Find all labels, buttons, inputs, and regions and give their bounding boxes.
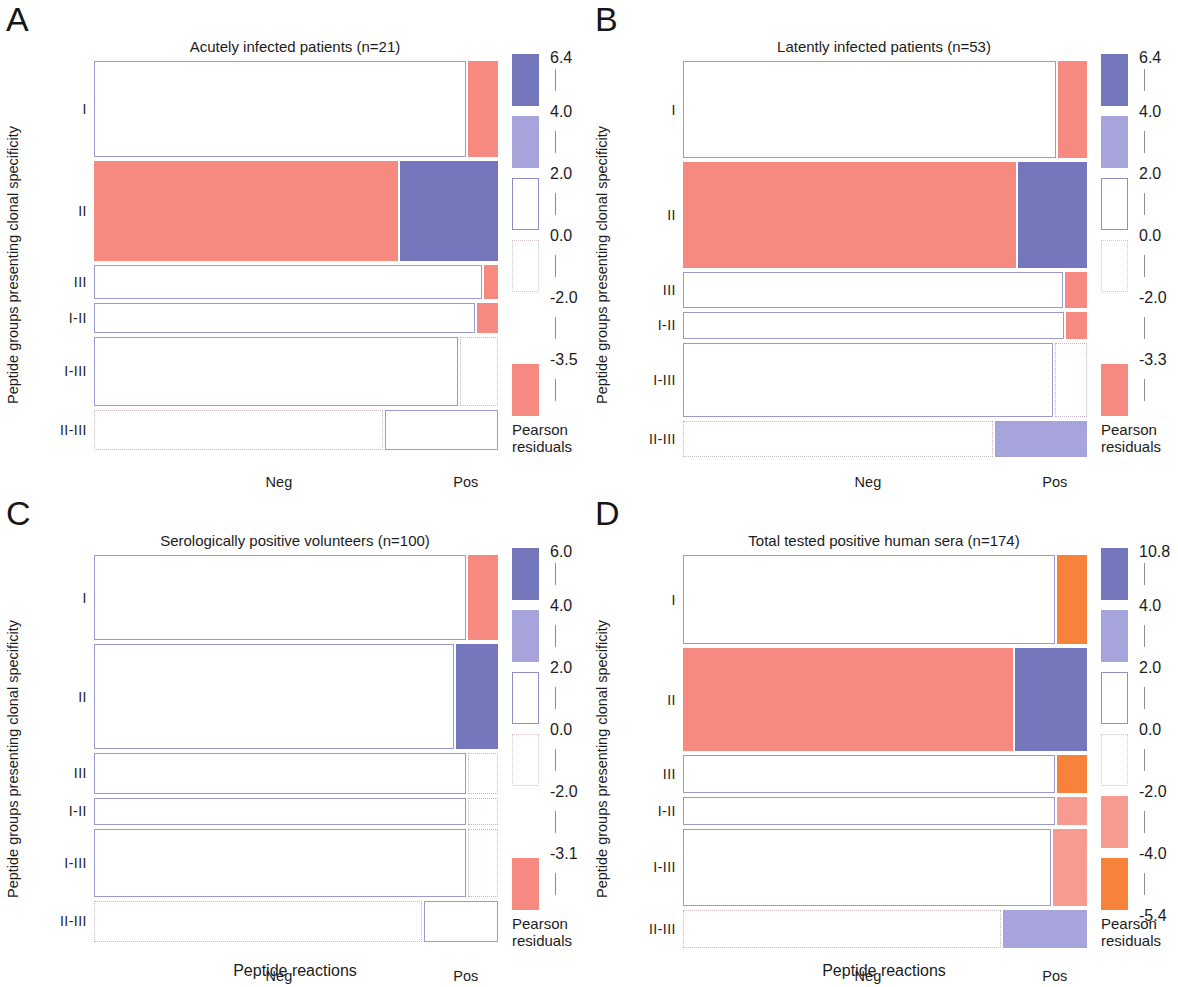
mosaic-row: I: [683, 555, 1085, 644]
y-axis-label-text: Peptide groups presenting clonal specifi…: [594, 620, 610, 898]
mosaic-cell-i-iii-neg[interactable]: [683, 829, 1051, 907]
mosaic-cell-ii-neg[interactable]: [94, 644, 454, 749]
mosaic-cell-iii-neg[interactable]: [94, 265, 482, 299]
legend-dash: [555, 193, 556, 215]
mosaic-plot: IIIIIII-III-IIIII-III: [94, 555, 496, 963]
mosaic-cell-i-ii-neg[interactable]: [94, 798, 466, 825]
mosaic-cell-i-neg[interactable]: [683, 555, 1055, 644]
legend-swatch-salmon: [1101, 364, 1128, 416]
mosaic-cell-ii-iii-pos[interactable]: [995, 421, 1087, 457]
legend-tick-label: 2.0: [550, 659, 572, 677]
figure-root: AAcutely infected patients (n=21)Peptide…: [0, 0, 1178, 987]
row-label-ii-iii: II-III: [649, 431, 676, 447]
mosaic-plot: IIIIIII-III-IIIII-III: [683, 61, 1085, 469]
mosaic-row: I-III: [94, 829, 496, 897]
mosaic-cell-ii-iii-pos[interactable]: [1003, 910, 1087, 948]
legend-dash: [1144, 873, 1145, 895]
legend-dash: [555, 131, 556, 153]
mosaic-cell-iii-pos[interactable]: [468, 753, 498, 794]
legend-tick-label: 2.0: [1139, 165, 1161, 183]
row-label-iii: III: [74, 274, 87, 290]
x-tick-pos: Pos: [1042, 474, 1067, 490]
mosaic-cell-i-ii-pos[interactable]: [1066, 312, 1087, 340]
row-label-iii: III: [663, 282, 676, 298]
legend-tick-label: 6.4: [550, 49, 572, 67]
legend-tick-label: -2.0: [550, 783, 578, 801]
mosaic-cell-ii-pos[interactable]: [400, 161, 498, 261]
legend-dash: [555, 687, 556, 709]
mosaic-cell-i-iii-pos[interactable]: [460, 337, 498, 406]
mosaic-row: III: [94, 753, 496, 794]
mosaic-cell-ii-iii-pos[interactable]: [424, 901, 498, 942]
mosaic-cell-iii-neg[interactable]: [94, 753, 466, 794]
legend-caption: Pearsonresiduals: [1101, 916, 1161, 950]
mosaic-cell-iii-pos[interactable]: [1057, 755, 1087, 793]
mosaic-cell-ii-pos[interactable]: [1018, 162, 1087, 268]
legend-swatch-white-dotted: [1101, 734, 1128, 786]
mosaic-cell-i-iii-pos[interactable]: [468, 829, 498, 897]
legend-tick-label: -3.5: [550, 351, 578, 369]
legend-dash: [555, 625, 556, 647]
mosaic-cell-ii-iii-neg[interactable]: [683, 910, 1001, 948]
mosaic-cell-iii-pos[interactable]: [484, 265, 498, 299]
mosaic-cell-i-iii-neg[interactable]: [683, 343, 1053, 417]
legend-swatch-light-blue: [512, 610, 539, 662]
y-axis-label-text: Peptide groups presenting clonal specifi…: [594, 126, 610, 404]
row-label-ii-iii: II-III: [60, 913, 87, 929]
y-axis-label-text: Peptide groups presenting clonal specifi…: [5, 620, 21, 898]
mosaic-cell-i-ii-neg[interactable]: [683, 312, 1064, 340]
legend-tick-label: 0.0: [1139, 227, 1161, 245]
mosaic-cell-ii-iii-neg[interactable]: [683, 421, 993, 457]
mosaic-cell-i-pos[interactable]: [468, 555, 498, 640]
mosaic-cell-ii-iii-pos[interactable]: [385, 410, 498, 451]
mosaic-cell-ii-iii-neg[interactable]: [94, 410, 383, 451]
mosaic-cell-ii-pos[interactable]: [1015, 648, 1087, 751]
panel-title: Acutely infected patients (n=21): [94, 38, 496, 55]
mosaic-cell-i-ii-neg[interactable]: [683, 797, 1055, 825]
y-axis-label: Peptide groups presenting clonal specifi…: [2, 555, 24, 963]
legend-swatch-white-solid: [512, 178, 539, 230]
legend-tick-label: 10.8: [1139, 543, 1170, 561]
mosaic-row: I-II: [683, 312, 1085, 340]
row-label-i-iii: I-III: [653, 859, 676, 875]
mosaic-cell-i-ii-neg[interactable]: [94, 303, 475, 332]
mosaic-cell-i-ii-pos[interactable]: [477, 303, 498, 332]
legend: 10.84.02.00.0-2.0-4.0-5.4Pearsonresidual…: [1101, 548, 1178, 948]
mosaic-cell-ii-neg[interactable]: [683, 648, 1013, 751]
mosaic-cell-i-iii-pos[interactable]: [1055, 343, 1087, 417]
legend-caption: Pearsonresiduals: [1101, 422, 1161, 456]
mosaic-cell-i-neg[interactable]: [94, 61, 466, 157]
mosaic-cell-i-neg[interactable]: [94, 555, 466, 640]
mosaic-cell-ii-neg[interactable]: [94, 161, 398, 261]
mosaic-cell-i-ii-pos[interactable]: [468, 798, 498, 825]
mosaic-row: I-III: [683, 343, 1085, 417]
mosaic-cell-i-iii-neg[interactable]: [94, 337, 458, 406]
y-axis-label-text: Peptide groups presenting clonal specifi…: [5, 126, 21, 404]
mosaic-row: III: [683, 272, 1085, 308]
mosaic-cell-i-neg[interactable]: [683, 61, 1056, 158]
mosaic-cell-iii-neg[interactable]: [683, 272, 1063, 308]
legend-swatch-light-blue: [1101, 116, 1128, 168]
legend-swatch-white-solid: [512, 672, 539, 724]
mosaic-cell-i-pos[interactable]: [468, 61, 498, 157]
legend-dash: [555, 69, 556, 91]
legend-swatch-white-dotted: [1101, 240, 1128, 292]
mosaic-row: II: [94, 644, 496, 749]
mosaic-cell-i-pos[interactable]: [1058, 61, 1087, 158]
mosaic-cell-ii-pos[interactable]: [456, 644, 498, 749]
mosaic-cell-i-iii-pos[interactable]: [1053, 829, 1087, 907]
mosaic-cell-iii-pos[interactable]: [1065, 272, 1087, 308]
mosaic-cell-i-iii-neg[interactable]: [94, 829, 466, 897]
mosaic-row: II-III: [94, 410, 496, 451]
mosaic-cell-ii-iii-neg[interactable]: [94, 901, 422, 942]
mosaic-cell-iii-neg[interactable]: [683, 755, 1055, 793]
panel-a: AAcutely infected patients (n=21)Peptide…: [0, 0, 589, 493]
legend-tick-label: 4.0: [550, 103, 572, 121]
legend-caption-line1: Pearson: [512, 916, 572, 933]
mosaic-cell-ii-neg[interactable]: [683, 162, 1016, 268]
mosaic-row: II: [94, 161, 496, 261]
mosaic-cell-i-ii-pos[interactable]: [1057, 797, 1087, 825]
mosaic-cell-i-pos[interactable]: [1057, 555, 1087, 644]
mosaic-row: I-II: [94, 303, 496, 332]
mosaic-row: I: [683, 61, 1085, 158]
